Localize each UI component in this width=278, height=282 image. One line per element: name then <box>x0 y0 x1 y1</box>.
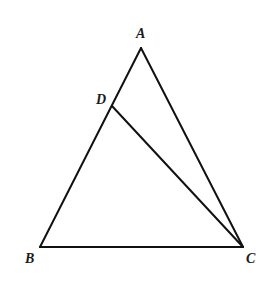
segment-dc <box>112 106 243 247</box>
vertex-label-b: B <box>24 251 34 266</box>
vertex-label-a: A <box>135 26 145 41</box>
segment-ca <box>141 48 243 247</box>
vertex-label-c: C <box>246 251 256 266</box>
triangle-diagram: A B C D <box>0 0 278 282</box>
segment-ab <box>40 48 141 247</box>
point-label-d: D <box>95 92 106 107</box>
